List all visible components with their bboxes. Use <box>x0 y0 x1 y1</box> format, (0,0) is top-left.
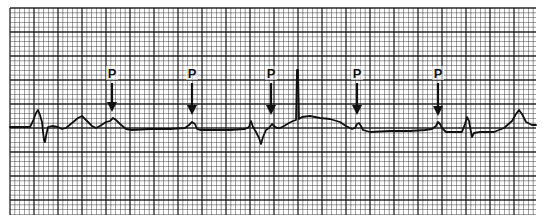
p-wave-label: P <box>267 66 276 81</box>
p-wave-label: P <box>434 66 443 81</box>
p-wave-label: P <box>188 66 197 81</box>
p-wave-label: P <box>108 66 117 81</box>
p-wave-label: P <box>353 66 362 81</box>
ecg-strip: PPPPP <box>0 0 544 222</box>
